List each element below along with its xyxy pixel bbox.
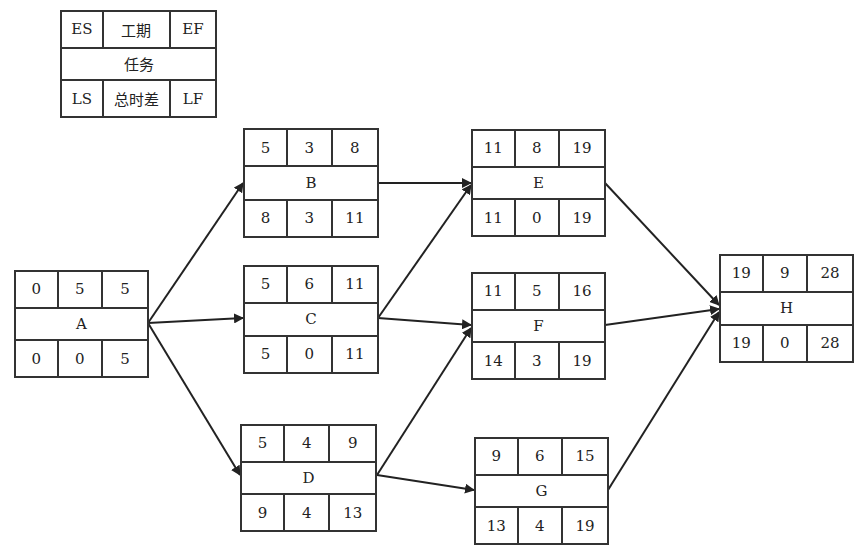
lf-value: 19 (561, 508, 607, 543)
task-name: B (245, 167, 377, 198)
duration-value: 5 (514, 274, 559, 309)
ef-value: 28 (806, 256, 852, 291)
ef-value: 8 (331, 130, 377, 165)
es-value: 9 (476, 439, 517, 474)
ef-value: 9 (328, 426, 375, 461)
ef-value: 15 (561, 439, 607, 474)
node-f: 11 5 16 F 14 3 19 (471, 272, 606, 380)
node-g: 9 6 15 G 13 4 19 (474, 437, 609, 545)
lf-value: 5 (101, 341, 147, 376)
edge-e-h (605, 183, 719, 305)
total-float-value: 3 (514, 343, 559, 378)
lf-value: 11 (331, 337, 377, 372)
legend-total-float: 总时差 (102, 81, 169, 116)
ef-value: 19 (558, 131, 604, 166)
total-float-value: 3 (286, 201, 331, 236)
duration-value: 9 (762, 256, 807, 291)
es-value: 5 (245, 267, 286, 302)
duration-value: 8 (514, 131, 559, 166)
duration-value: 4 (283, 426, 328, 461)
node-d: 5 4 9 D 9 4 13 (240, 424, 377, 532)
lf-value: 28 (806, 326, 852, 361)
es-value: 5 (245, 130, 286, 165)
ls-value: 19 (721, 326, 762, 361)
task-name: E (473, 168, 604, 199)
legend-box: ES 工期 EF 任务 LS 总时差 LF (60, 10, 217, 118)
ef-value: 11 (331, 267, 377, 302)
node-a: 0 5 5 A 0 0 5 (14, 270, 149, 378)
ls-value: 8 (245, 201, 286, 236)
edge-c-e (378, 185, 471, 318)
lf-value: 11 (331, 201, 377, 236)
edge-f-h (605, 309, 719, 325)
ef-value: 16 (558, 274, 604, 309)
total-float-value: 0 (286, 337, 331, 372)
node-b: 5 3 8 B 8 3 11 (243, 128, 379, 238)
edge-g-h (608, 312, 719, 490)
es-value: 0 (16, 272, 57, 307)
edge-a-c (148, 318, 243, 323)
es-value: 5 (242, 426, 283, 461)
ls-value: 13 (476, 508, 517, 543)
es-value: 11 (473, 274, 514, 309)
ls-value: 14 (473, 343, 514, 378)
legend-es: ES (62, 12, 102, 47)
duration-value: 5 (57, 272, 102, 307)
legend-lf: LF (169, 81, 215, 116)
task-name: C (245, 304, 377, 335)
total-float-value: 0 (762, 326, 807, 361)
total-float-value: 0 (514, 200, 559, 235)
ls-value: 9 (242, 495, 283, 530)
task-name: D (242, 463, 375, 494)
legend-ls: LS (62, 81, 102, 116)
total-float-value: 0 (57, 341, 102, 376)
task-name: A (16, 309, 147, 340)
total-float-value: 4 (283, 495, 328, 530)
task-name: F (473, 311, 604, 342)
total-float-value: 4 (517, 508, 562, 543)
node-e: 11 8 19 E 11 0 19 (471, 129, 606, 237)
duration-value: 6 (286, 267, 331, 302)
edge-c-f (378, 318, 471, 325)
task-name: H (721, 293, 852, 324)
legend-ef: EF (169, 12, 215, 47)
lf-value: 19 (558, 343, 604, 378)
ef-value: 5 (101, 272, 147, 307)
es-value: 19 (721, 256, 762, 291)
duration-value: 6 (517, 439, 562, 474)
node-c: 5 6 11 C 5 0 11 (243, 265, 379, 374)
ls-value: 5 (245, 337, 286, 372)
legend-task: 任务 (62, 49, 215, 80)
edge-a-d (148, 323, 240, 475)
node-h: 19 9 28 H 19 0 28 (719, 254, 854, 363)
lf-value: 19 (558, 200, 604, 235)
ls-value: 0 (16, 341, 57, 376)
lf-value: 13 (328, 495, 375, 530)
ls-value: 11 (473, 200, 514, 235)
edge-d-g (377, 475, 474, 490)
duration-value: 3 (286, 130, 331, 165)
legend-duration: 工期 (102, 12, 169, 47)
edge-d-f (377, 328, 471, 475)
es-value: 11 (473, 131, 514, 166)
edge-a-b (148, 183, 243, 323)
task-name: G (476, 476, 607, 507)
